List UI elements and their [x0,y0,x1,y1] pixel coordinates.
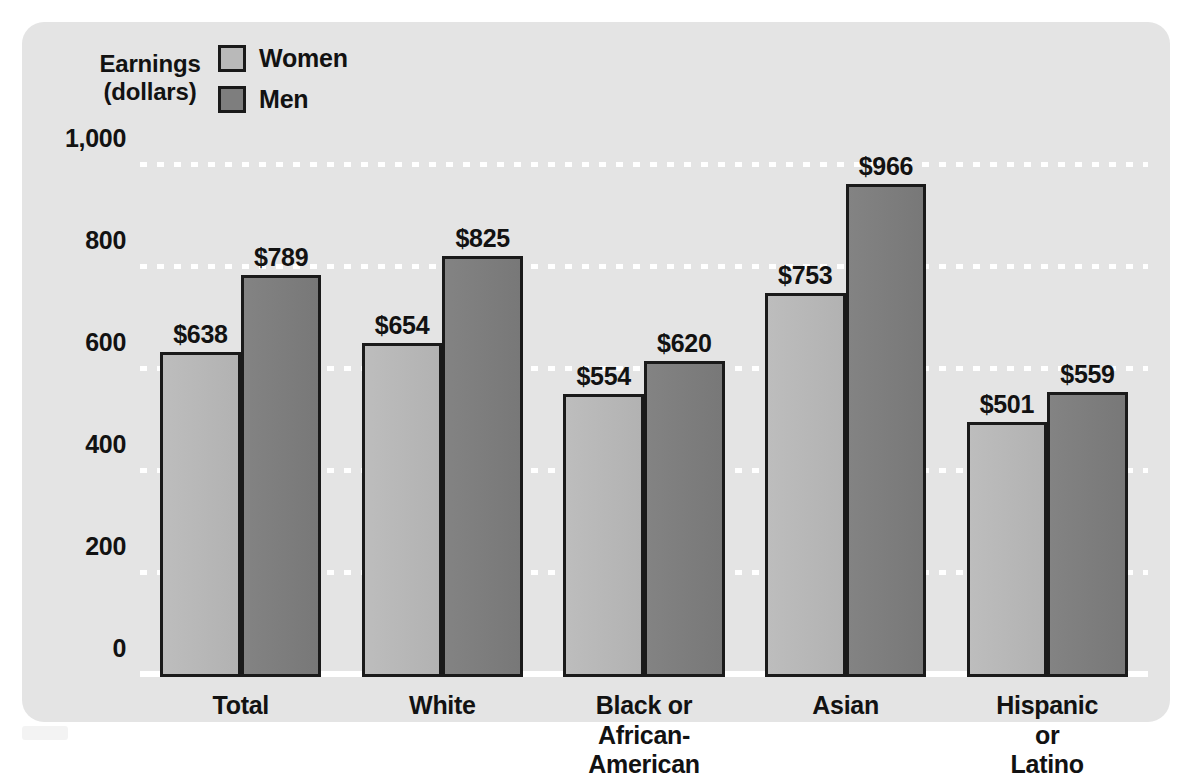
y-axis-tick-label: 1,000 [65,124,126,153]
bar-group: $654$825White [362,167,523,677]
x-axis-category-label: White [409,691,476,721]
x-axis-category-label: Hispanic or Latino [996,691,1098,777]
y-axis-tick-label: 0 [112,634,126,663]
legend-label-women: Women [259,44,348,73]
bar-value-label: $654 [375,311,429,340]
bar-value-label: $753 [778,261,832,290]
legend-item-women[interactable]: Women [218,44,348,73]
chart-panel: Earnings (dollars) Women Men 02004006008… [22,22,1170,722]
bar-value-label: $789 [254,243,308,272]
bar-women-3[interactable]: $753 [765,293,846,677]
bar-group: $753$966Asian [765,167,926,677]
bar-women-0[interactable]: $638 [160,352,241,677]
y-axis-title: Earnings (dollars) [70,50,230,107]
bar-value-label: $638 [173,320,227,349]
legend-item-men[interactable]: Men [218,85,348,114]
bar-group: $638$789Total [160,167,321,677]
bar-group: $501$559Hispanic or Latino [967,167,1128,677]
bar-men-3[interactable]: $966 [846,184,927,677]
bar-men-2[interactable]: $620 [644,361,725,677]
bar-value-label: $825 [455,224,509,253]
x-axis-category-label: Asian [812,691,879,721]
legend-swatch-men-icon [218,86,246,113]
y-axis-tick-label: 400 [85,430,126,459]
y-axis-tick-label: 600 [85,328,126,357]
bar-value-label: $501 [980,390,1034,419]
bar-value-label: $559 [1060,360,1114,389]
bar-women-1[interactable]: $654 [362,343,443,677]
bar-value-label: $966 [859,152,913,181]
y-axis-tick-label: 200 [85,532,126,561]
plot-area: 02004006008001,000 $638$789Total$654$825… [140,145,1148,677]
x-axis-category-label: Total [213,691,269,721]
page-corner-artifact [22,726,68,740]
bar-men-4[interactable]: $559 [1047,392,1128,677]
bar-value-label: $620 [657,329,711,358]
bar-men-1[interactable]: $825 [442,256,523,677]
bar-women-2[interactable]: $554 [563,394,644,677]
bar-groups: $638$789Total$654$825White$554$620Black … [140,167,1148,677]
x-axis-category-label: Black or African-American [588,691,700,777]
bar-women-4[interactable]: $501 [967,422,1048,678]
bar-value-label: $554 [576,362,630,391]
legend-label-men: Men [259,85,308,114]
chart-legend: Women Men [218,44,348,126]
legend-swatch-women-icon [218,45,246,72]
y-axis-tick-label: 800 [85,226,126,255]
bar-group: $554$620Black or African-American [563,167,724,677]
bar-men-0[interactable]: $789 [241,275,322,677]
